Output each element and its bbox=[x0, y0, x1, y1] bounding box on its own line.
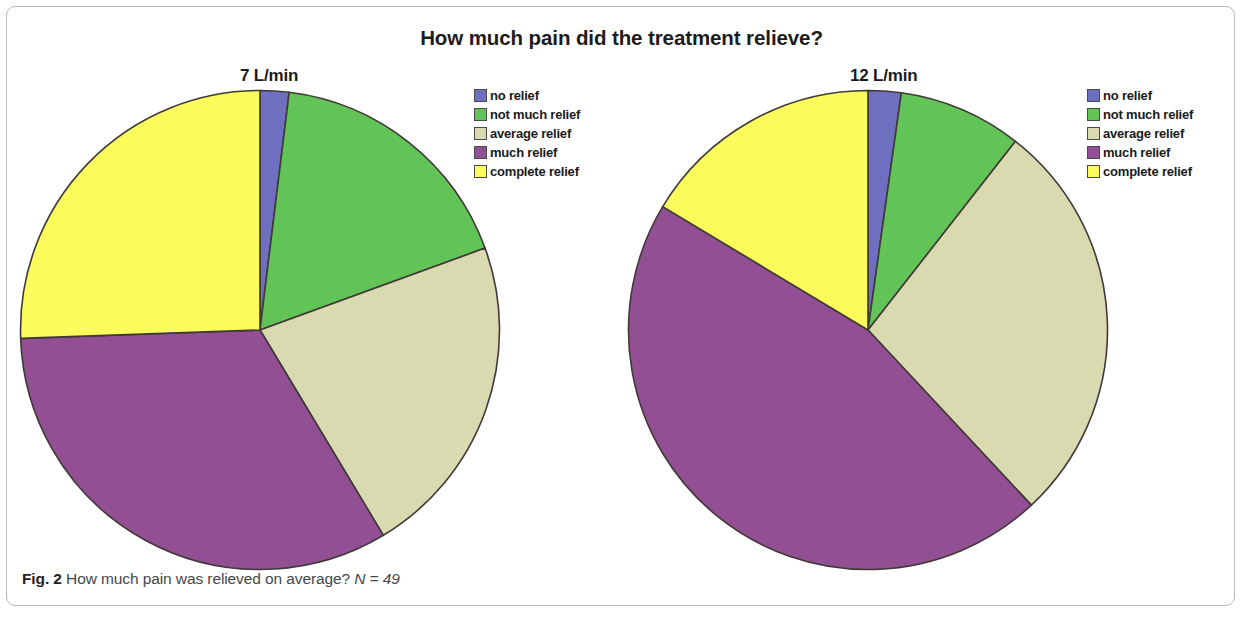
caption-sample-size: N = 49 bbox=[354, 570, 400, 587]
legend-item: complete relief bbox=[474, 162, 580, 181]
legend-item: no relief bbox=[1087, 86, 1193, 105]
legend-left: no reliefnot much reliefaverage reliefmu… bbox=[474, 86, 580, 181]
legend-item-label: average relief bbox=[1103, 127, 1184, 140]
legend-item: average relief bbox=[1087, 124, 1193, 143]
figure-caption: Fig. 2 How much pain was relieved on ave… bbox=[22, 570, 400, 588]
legend-item-label: not much relief bbox=[490, 108, 580, 121]
legend-swatch-icon bbox=[474, 89, 487, 102]
legend-item-label: average relief bbox=[490, 127, 571, 140]
legend-swatch-icon bbox=[1087, 89, 1100, 102]
legend-item-label: complete relief bbox=[490, 165, 579, 178]
legend-swatch-icon bbox=[1087, 127, 1100, 140]
pie-chart-right bbox=[626, 88, 1110, 572]
legend-swatch-icon bbox=[1087, 146, 1100, 159]
legend-item-label: no relief bbox=[490, 89, 539, 102]
legend-swatch-icon bbox=[474, 165, 487, 178]
legend-swatch-icon bbox=[1087, 108, 1100, 121]
legend-right: no reliefnot much reliefaverage reliefmu… bbox=[1087, 86, 1193, 181]
legend-item: much relief bbox=[1087, 143, 1193, 162]
pie-svg-right bbox=[626, 88, 1110, 572]
legend-item-label: much relief bbox=[1103, 146, 1170, 159]
legend-item: not much relief bbox=[474, 105, 580, 124]
pie-title-left: 7 L/min bbox=[240, 66, 298, 86]
caption-body: How much pain was relieved on average? bbox=[66, 570, 350, 587]
pie-slice bbox=[21, 91, 260, 339]
pie-slices-right bbox=[629, 91, 1108, 570]
legend-swatch-icon bbox=[1087, 165, 1100, 178]
legend-item-label: not much relief bbox=[1103, 108, 1193, 121]
legend-item: average relief bbox=[474, 124, 580, 143]
legend-item: complete relief bbox=[1087, 162, 1193, 181]
pie-title-right: 12 L/min bbox=[850, 66, 917, 86]
pie-slices-left bbox=[21, 91, 500, 570]
pie-chart-left bbox=[18, 88, 502, 572]
legend-item: much relief bbox=[474, 143, 580, 162]
caption-figure-label: Fig. 2 bbox=[22, 570, 62, 587]
figure-title: How much pain did the treatment relieve? bbox=[0, 26, 1243, 50]
legend-item: no relief bbox=[474, 86, 580, 105]
legend-swatch-icon bbox=[474, 127, 487, 140]
legend-item-label: complete relief bbox=[1103, 165, 1192, 178]
figure-container: How much pain did the treatment relieve?… bbox=[0, 0, 1243, 620]
legend-swatch-icon bbox=[474, 108, 487, 121]
legend-item-label: much relief bbox=[490, 146, 557, 159]
legend-swatch-icon bbox=[474, 146, 487, 159]
legend-item-label: no relief bbox=[1103, 89, 1152, 102]
legend-item: not much relief bbox=[1087, 105, 1193, 124]
pie-svg-left bbox=[18, 88, 502, 572]
